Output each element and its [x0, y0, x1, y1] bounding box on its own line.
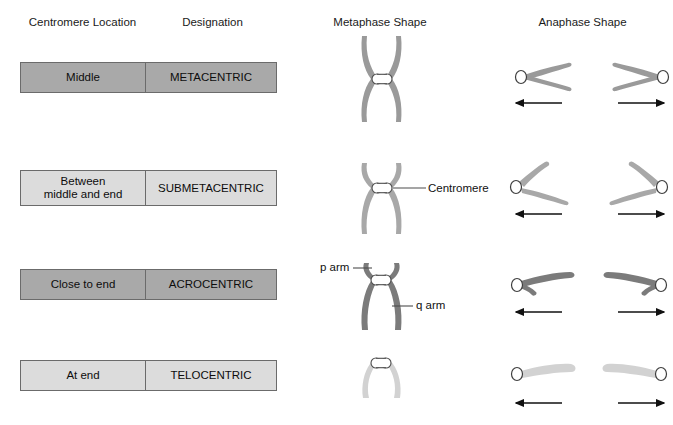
centromere-icon: [372, 74, 392, 84]
cell-location-metacentric: Middle: [21, 63, 146, 92]
row-metacentric: Middle METACENTRIC: [20, 62, 277, 93]
cell-designation-metacentric: METACENTRIC: [146, 63, 276, 92]
centromere-icon: [511, 181, 522, 194]
annotation-q-arm-label: q arm: [416, 299, 445, 311]
centromere-icon: [372, 183, 392, 193]
anaphase-submetacentric-left: [511, 161, 569, 205]
centromere-icon: [371, 275, 391, 285]
cell-location-telocentric: At end: [21, 361, 146, 390]
anaphase-telocentric-left: [512, 364, 576, 381]
column-header-centromere-location: Centromere Location: [20, 16, 145, 28]
cell-location-submetacentric-line1: Between: [44, 175, 123, 188]
centromere-icon: [512, 368, 523, 381]
cell-location-submetacentric: Between middle and end: [21, 171, 146, 205]
figure-canvas: Centromere Location Designation Metaphas…: [0, 0, 673, 425]
cell-location-acrocentric: Close to end: [21, 270, 146, 299]
metaphase-metacentric: [361, 36, 401, 122]
row-telocentric: At end TELOCENTRIC: [20, 360, 277, 391]
anaphase-acrocentric-left: [512, 272, 575, 296]
cell-designation-telocentric: TELOCENTRIC: [146, 361, 276, 390]
anaphase-metacentric-left: [516, 63, 572, 91]
metaphase-telocentric: [362, 358, 400, 398]
centromere-icon: [512, 279, 523, 292]
centromere-icon: [516, 71, 527, 84]
centromere-icon: [656, 279, 667, 292]
cell-designation-acrocentric: ACROCENTRIC: [146, 270, 276, 299]
cell-location-submetacentric-line2: middle and end: [44, 188, 123, 201]
column-header-anaphase-shape: Anaphase Shape: [505, 16, 660, 28]
centromere-icon: [656, 368, 667, 381]
annotation-p-arm-label: p arm: [320, 261, 349, 273]
metaphase-acrocentric: [353, 263, 413, 330]
anaphase-telocentric-right: [603, 364, 667, 381]
row-submetacentric: Between middle and end SUBMETACENTRIC: [20, 170, 277, 206]
annotation-centromere-label: Centromere: [428, 182, 489, 194]
anaphase-submetacentric-right: [609, 161, 667, 205]
column-header-designation: Designation: [150, 16, 275, 28]
row-acrocentric: Close to end ACROCENTRIC: [20, 269, 277, 300]
centromere-icon: [371, 358, 391, 368]
metaphase-submetacentric: [361, 163, 426, 234]
anaphase-acrocentric-right: [604, 272, 667, 296]
centromere-icon: [657, 181, 668, 194]
anaphase-metacentric-right: [612, 63, 668, 91]
column-header-metaphase-shape: Metaphase Shape: [315, 16, 445, 28]
cell-designation-submetacentric: SUBMETACENTRIC: [146, 171, 276, 205]
centromere-icon: [658, 71, 669, 84]
